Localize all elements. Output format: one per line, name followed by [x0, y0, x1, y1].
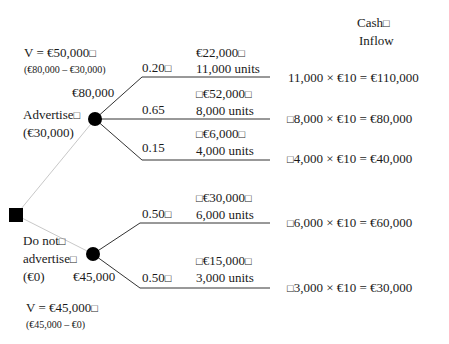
cash-inflow-header-line1: Cash [357, 15, 390, 31]
advertise-label: Advertise [23, 107, 80, 123]
advertise-branch-3-probability: 0.15 [142, 140, 165, 155]
do-not-advertise-node-value: €45,000 [73, 269, 115, 284]
advertise-branch-2-probability: 0.65 [142, 102, 165, 117]
do-not-advertise-branch-1-cash-inflow: 6,000 × €10 = €60,000 [287, 215, 412, 231]
advertise-branch-2-payoff: €52,000 [196, 86, 252, 102]
advertise-branch-1-probability: 0.20 [142, 60, 171, 76]
do-not-advertise-branch-1-units: 6,000 units [196, 207, 254, 222]
decision-node-icon [9, 208, 23, 222]
advertise-branch-3-cash-inflow: 4,000 × €10 = €40,000 [287, 151, 412, 167]
do-not-advertise-net-value: V = €45,000 [26, 300, 98, 316]
do-not-advertise-net-calc: (€45,000 – €0) [26, 319, 85, 331]
chance-node-advertise-icon [88, 112, 102, 126]
advertise-net-value: V = €50,000 [24, 45, 96, 61]
do-not-advertise-branch-2-payoff: €15,000 [196, 253, 252, 269]
advertise-branch-1-cash-inflow: 11,000 × €10 = €110,000 [288, 70, 419, 85]
do-not-advertise-branch-1-probability: 0.50 [142, 206, 171, 222]
do-not-advertise-branch-2-cash-inflow: 3,000 × €10 = €30,000 [287, 280, 412, 296]
do-not-advertise-label-line1: Do not [23, 233, 65, 249]
do-not-advertise-cost: (€0) [23, 269, 45, 284]
advertise-branch-1-payoff: €22,000 [196, 45, 245, 61]
advertise-node-value: €80,000 [72, 85, 114, 100]
cash-inflow-header-line2: Inflow [359, 33, 394, 48]
advertise-branch-3-payoff: €6,000 [196, 126, 245, 142]
chance-node-do-not-advertise-icon [86, 247, 100, 261]
advertise-cost: (€30,000) [23, 125, 74, 140]
do-not-advertise-branch-1-payoff: €30,000 [196, 190, 252, 206]
advertise-branch-2-units: 8,000 units [196, 103, 254, 118]
do-not-advertise-branch-2-units: 3,000 units [196, 270, 254, 285]
advertise-branch-1-units: 11,000 units [196, 61, 260, 76]
do-not-advertise-label-line2: advertise [23, 251, 77, 267]
do-not-advertise-branch-2-probability: 0.50 [142, 270, 171, 286]
advertise-net-calc: (€80,000 – €30,000) [24, 64, 106, 76]
advertise-branch-3-units: 4,000 units [196, 143, 254, 158]
advertise-branch-2-cash-inflow: 8,000 × €10 = €80,000 [287, 111, 412, 127]
